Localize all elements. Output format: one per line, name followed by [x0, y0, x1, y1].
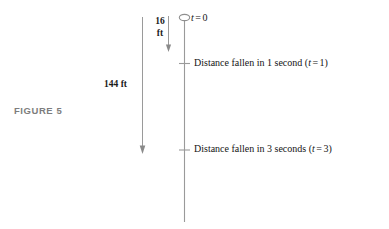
- figure-caption: FIGURE 5: [14, 105, 62, 116]
- dimension-label-16ft: 16 ft: [152, 16, 168, 39]
- marker-suffix-t3: ): [328, 143, 331, 154]
- ball-ellipse-icon: [179, 14, 189, 20]
- marker-equals-t1: =: [311, 57, 320, 68]
- marker-label-t0: t=0: [191, 12, 207, 23]
- dimension-label-144ft: 144 ft: [104, 79, 127, 89]
- marker-label-t3: Distance fallen in 3 seconds (t=3): [194, 143, 332, 154]
- arrowhead-down-16ft: [166, 45, 171, 53]
- marker-text-t3: Distance fallen in 3 seconds (: [194, 143, 312, 154]
- marker-label-t1: Distance fallen in 1 second (t=1): [194, 57, 328, 68]
- marker-suffix-t1: ): [325, 57, 328, 68]
- marker-value-t0: 0: [202, 12, 207, 23]
- marker-text-t1: Distance fallen in 1 second (: [194, 57, 308, 68]
- dimension-value-16: 16: [152, 16, 168, 28]
- arrowhead-down-144ft: [140, 146, 146, 155]
- dimension-unit-ft: ft: [152, 28, 168, 40]
